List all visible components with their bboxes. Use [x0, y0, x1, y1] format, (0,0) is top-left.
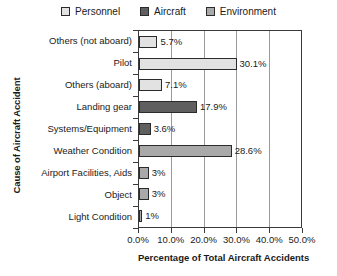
- bar-row: 28.6%: [139, 140, 301, 162]
- bar-value-label: 17.9%: [197, 102, 227, 112]
- legend-item-environment: Environment: [206, 6, 276, 17]
- legend-swatch-personnel-icon: [61, 7, 70, 16]
- x-axis-tick-labels: 0.0%10.0%20.0%30.0%40.0%50.0%: [138, 234, 302, 247]
- x-tick-label: 50.0%: [289, 234, 316, 245]
- y-axis-label: Weather Condition: [8, 140, 136, 162]
- bar-row: 3%: [139, 183, 301, 205]
- legend-label-aircraft: Aircraft: [154, 6, 186, 17]
- bar: [139, 79, 162, 91]
- bar-value-label: 3%: [149, 168, 166, 178]
- y-axis-category-labels: Others (not aboard)PilotOthers (aboard)L…: [8, 30, 136, 228]
- legend-swatch-environment-icon: [206, 7, 215, 16]
- bar-value-label: 3.6%: [151, 124, 176, 134]
- x-axis-ticks: [138, 228, 302, 233]
- x-tick: [204, 228, 205, 233]
- x-tick-label: 40.0%: [256, 234, 283, 245]
- x-tick-label: 20.0%: [190, 234, 217, 245]
- legend-item-aircraft: Aircraft: [140, 6, 186, 17]
- bar: [139, 188, 149, 200]
- bar: [139, 123, 151, 135]
- bar-chart: Personnel Aircraft Environment Cause of …: [0, 0, 337, 276]
- bar-value-label: 3%: [149, 189, 166, 199]
- x-tick: [302, 228, 303, 233]
- bar-row: 1%: [139, 205, 301, 227]
- bar-value-label: 30.1%: [237, 59, 267, 69]
- x-axis-title: Percentage of Total Aircraft Accidents: [138, 252, 302, 263]
- bar: [139, 145, 232, 157]
- y-axis-label: Others (aboard): [8, 74, 136, 96]
- y-axis-label: Object: [8, 184, 136, 206]
- bar: [139, 58, 237, 70]
- bar: [139, 101, 197, 113]
- chart-legend: Personnel Aircraft Environment: [0, 6, 337, 17]
- y-axis-label: Pilot: [8, 52, 136, 74]
- x-tick: [171, 228, 172, 233]
- bar-series: 5.7%30.1%7.1%17.9%3.6%28.6%3%3%1%: [139, 31, 301, 227]
- x-tick: [236, 228, 237, 233]
- x-tick-label: 30.0%: [223, 234, 250, 245]
- bar-row: 3%: [139, 162, 301, 184]
- y-axis-label: Airport Facilities, Aids: [8, 162, 136, 184]
- bar-row: 5.7%: [139, 31, 301, 53]
- bar-value-label: 7.1%: [162, 80, 187, 90]
- y-axis-label: Light Condition: [8, 206, 136, 228]
- legend-label-environment: Environment: [220, 6, 276, 17]
- x-tick: [138, 228, 139, 233]
- bar-value-label: 1%: [142, 211, 159, 221]
- bar-row: 17.9%: [139, 96, 301, 118]
- plot-area: 5.7%30.1%7.1%17.9%3.6%28.6%3%3%1%: [138, 30, 302, 228]
- y-axis-label: Systems/Equipment: [8, 118, 136, 140]
- y-axis-label: Landing gear: [8, 96, 136, 118]
- x-tick-label: 0.0%: [127, 234, 149, 245]
- bar-row: 30.1%: [139, 53, 301, 75]
- bar-row: 7.1%: [139, 75, 301, 97]
- bar-row: 3.6%: [139, 118, 301, 140]
- bar-value-label: 28.6%: [232, 146, 262, 156]
- legend-swatch-aircraft-icon: [140, 7, 149, 16]
- x-tick: [269, 228, 270, 233]
- legend-label-personnel: Personnel: [75, 6, 120, 17]
- y-axis-label: Others (not aboard): [8, 30, 136, 52]
- x-tick-label: 10.0%: [157, 234, 184, 245]
- legend-item-personnel: Personnel: [61, 6, 120, 17]
- bar: [139, 36, 157, 48]
- bar-value-label: 5.7%: [157, 37, 182, 47]
- bar: [139, 167, 149, 179]
